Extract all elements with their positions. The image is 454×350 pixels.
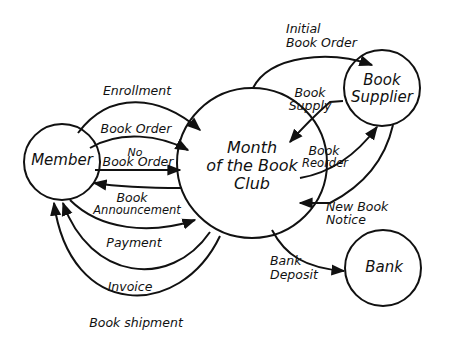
new-book-notice-label-line2: Notice xyxy=(326,213,376,226)
invoice-label: Invoice xyxy=(100,280,160,293)
bank-deposit-label-line1: Bank xyxy=(270,254,310,267)
supplier-label-line1: Book xyxy=(346,72,418,89)
payment-label: Payment xyxy=(104,236,164,249)
club-label-line2: of the Book xyxy=(200,157,304,175)
initial-book-order-label-line1: Initial xyxy=(286,22,336,35)
bank-label: Bank xyxy=(348,259,420,276)
no-book-order-label-line2: Book Order xyxy=(98,155,178,168)
club-label-line1: Month xyxy=(200,139,304,157)
data-flow-diagram: Member Month of the Book Club Book Suppl… xyxy=(0,0,454,350)
enrollment-label: Enrollment xyxy=(92,84,182,97)
book-announcement-arrow xyxy=(94,183,182,188)
book-reorder-label-line2: Reorder xyxy=(300,157,350,170)
supplier-label-line2: Supplier xyxy=(346,89,418,106)
member-label: Member xyxy=(26,152,98,169)
book-supply-label-line2: Supply xyxy=(288,99,332,112)
book-announcement-label-line2: Announcement xyxy=(92,204,182,217)
bank-deposit-label-line2: Deposit xyxy=(270,268,320,281)
initial-book-order-label-line2: Book Order xyxy=(286,36,366,49)
book-shipment-label: Book shipment xyxy=(84,316,188,329)
book-order-label: Book Order xyxy=(96,122,176,135)
club-label-line3: Club xyxy=(200,175,304,193)
